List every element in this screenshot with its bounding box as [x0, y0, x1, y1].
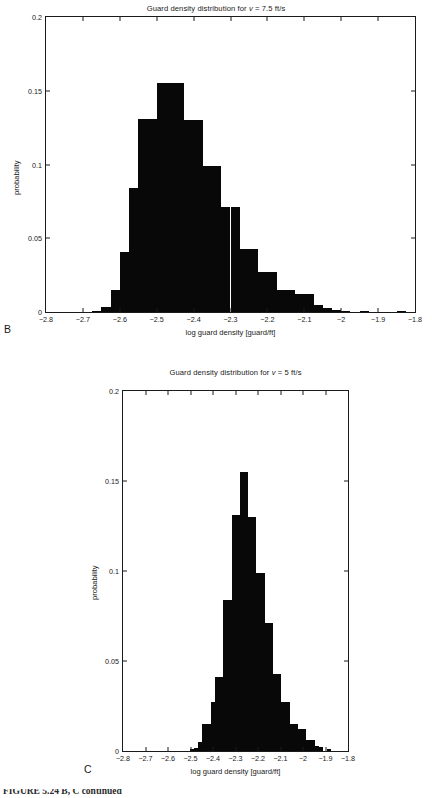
- histogram-bar: [184, 120, 193, 312]
- x-axis-tick-label: −2.3: [228, 754, 242, 763]
- y-axis-tick-label: 0.05: [105, 657, 119, 666]
- x-axis-tick-label: −2: [299, 754, 307, 763]
- y-axis-tick-mark: [46, 164, 50, 165]
- x-axis-tick-label: −1.8: [408, 315, 422, 324]
- histogram-bar: [221, 207, 230, 312]
- histogram-bar: [323, 308, 332, 312]
- y-axis-tick-label: 0.1: [109, 567, 119, 576]
- y-axis-tick-mark: [123, 481, 127, 482]
- panel-letter-c: C: [84, 763, 92, 775]
- x-axis-label-b: log guard density [guard/ft]: [45, 328, 416, 337]
- histogram-bar: [157, 83, 166, 312]
- x-axis-tick-mark: [280, 391, 281, 395]
- x-axis-tick-mark: [190, 391, 191, 395]
- y-axis-label-b: probability: [12, 160, 21, 195]
- x-axis-tick-mark: [168, 391, 169, 395]
- x-axis-tick-mark: [341, 17, 342, 21]
- histogram-bar: [249, 249, 258, 312]
- histogram-bar: [341, 311, 350, 312]
- plot-area-b: 00.050.10.150.2−2.8−2.7−2.6−2.5−2.4−2.3−…: [45, 16, 416, 313]
- histogram-bar: [166, 83, 175, 312]
- x-axis-tick-mark: [378, 308, 379, 312]
- histogram-bar: [240, 249, 249, 312]
- y-axis-tick-label: 0.15: [28, 86, 42, 95]
- x-axis-tick-mark: [235, 391, 236, 395]
- x-axis-tick-mark: [267, 17, 268, 21]
- histogram-bar: [101, 307, 110, 312]
- y-axis-tick-mark: [46, 238, 50, 239]
- x-axis-tick-label: −2.3: [223, 315, 237, 324]
- x-axis-tick-mark: [213, 391, 214, 395]
- x-axis-tick-mark: [145, 391, 146, 395]
- y-axis-tick-label: 0.15: [105, 477, 119, 486]
- y-axis-tick-mark: [123, 571, 127, 572]
- x-axis-tick-mark: [378, 17, 379, 21]
- histogram-bar: [314, 305, 323, 312]
- x-axis-tick-mark: [303, 747, 304, 751]
- histogram-bars-c: [123, 391, 348, 751]
- x-axis-tick-mark: [267, 308, 268, 312]
- x-axis-tick-mark: [119, 17, 120, 21]
- histogram-bar: [231, 207, 240, 312]
- x-axis-tick-mark: [156, 17, 157, 21]
- histogram-bar: [175, 83, 184, 312]
- histogram-bar: [138, 119, 147, 312]
- x-axis-tick-mark: [119, 308, 120, 312]
- x-axis-tick-mark: [230, 308, 231, 312]
- histogram-bar: [397, 311, 406, 312]
- x-axis-tick-label: −1.8: [341, 754, 355, 763]
- x-axis-tick-label: −2.1: [297, 315, 311, 324]
- x-axis-tick-mark: [235, 747, 236, 751]
- panel-c: Guard density distribution for v = 5 ft/…: [0, 360, 432, 790]
- y-axis-tick-mark: [411, 164, 415, 165]
- chart-title-c: Guard density distribution for v = 5 ft/…: [122, 368, 349, 377]
- y-axis-tick-mark: [46, 90, 50, 91]
- y-axis-tick-label: 0.2: [32, 13, 42, 22]
- x-axis-tick-mark: [341, 308, 342, 312]
- x-axis-tick-label: −2.6: [161, 754, 175, 763]
- x-axis-tick-mark: [258, 391, 259, 395]
- x-axis-tick-label: −2.5: [150, 315, 164, 324]
- y-axis-tick-label: 0.2: [109, 387, 119, 396]
- x-axis-tick-mark: [193, 17, 194, 21]
- histogram-bar: [92, 311, 101, 312]
- x-axis-tick-label: −2.7: [76, 315, 90, 324]
- figure-caption-strip: FIGURE 5.24 B, C continued: [0, 789, 432, 798]
- chart-title-c-prefix: Guard density distribution for: [169, 368, 271, 377]
- histogram-bar: [147, 119, 156, 312]
- x-axis-tick-mark: [230, 17, 231, 21]
- x-axis-tick-mark: [193, 308, 194, 312]
- x-axis-tick-label: −2.2: [251, 754, 265, 763]
- x-axis-tick-mark: [213, 747, 214, 751]
- x-axis-tick-label: −2.5: [183, 754, 197, 763]
- histogram-bar: [194, 120, 203, 312]
- x-axis-tick-label: −1.9: [318, 754, 332, 763]
- y-axis-tick-label: 0.1: [32, 160, 42, 169]
- x-axis-tick-label: −2.7: [138, 754, 152, 763]
- y-axis-tick-mark: [344, 481, 348, 482]
- x-axis-tick-label: −2.4: [186, 315, 200, 324]
- histogram-bar: [304, 294, 313, 312]
- histogram-bars-b: [46, 17, 415, 312]
- x-axis-tick-label: −2.1: [273, 754, 287, 763]
- histogram-bar: [203, 166, 212, 312]
- chart-title-b-suffix: = 7.5 ft/s: [253, 4, 286, 13]
- x-axis-tick-mark: [258, 747, 259, 751]
- x-axis-tick-mark: [156, 308, 157, 312]
- chart-title-b: Guard density distribution for v = 7.5 f…: [0, 4, 432, 13]
- y-axis-tick-mark: [411, 90, 415, 91]
- histogram-bar: [120, 252, 129, 312]
- chart-title-c-suffix: = 5 ft/s: [276, 368, 302, 377]
- x-axis-tick-label: −2: [337, 315, 345, 324]
- x-axis-tick-mark: [303, 391, 304, 395]
- histogram-bar: [277, 290, 286, 312]
- y-axis-label-c: probability: [90, 565, 99, 600]
- histogram-bar: [212, 166, 221, 312]
- histogram-bar: [129, 188, 138, 312]
- x-axis-tick-label: −2.6: [113, 315, 127, 324]
- x-axis-label-c: log guard density [guard/ft]: [122, 767, 349, 776]
- histogram-bar: [327, 749, 331, 751]
- x-axis-tick-label: −2.8: [116, 754, 130, 763]
- x-axis-tick-mark: [280, 747, 281, 751]
- histogram-bar: [360, 311, 369, 312]
